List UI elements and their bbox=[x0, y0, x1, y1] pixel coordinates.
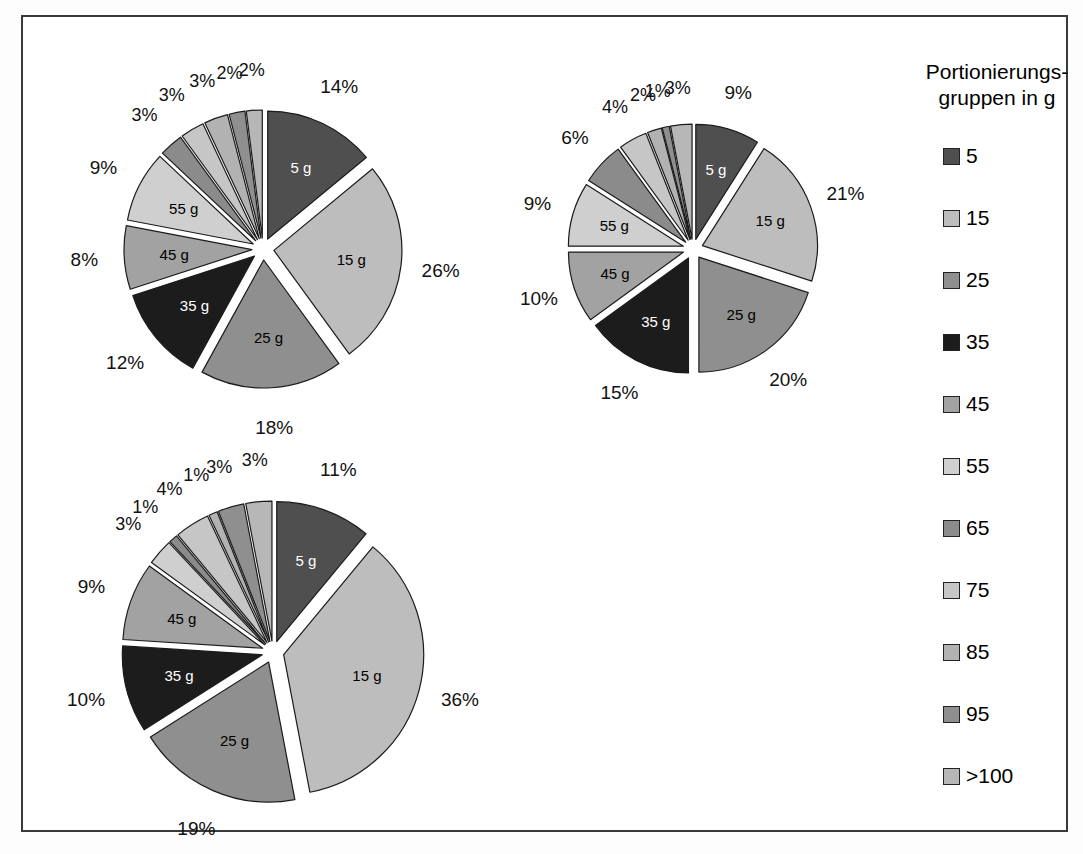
pie-bottom-left-svg: 5 g11%15 g36%25 g19%35 g10%45 g9%3%1%4%1… bbox=[23, 417, 583, 827]
legend-item-label: 75 bbox=[966, 578, 989, 602]
legend-item-label: 55 bbox=[966, 454, 989, 478]
legend-item-5[interactable]: 5 bbox=[907, 125, 1083, 187]
slice-percent-label: 21% bbox=[826, 183, 864, 204]
slice-percent-label: 3% bbox=[189, 71, 215, 91]
legend-item-85[interactable]: 85 bbox=[907, 621, 1083, 683]
legend-swatch-icon bbox=[943, 210, 960, 227]
legend-swatch-icon bbox=[943, 272, 960, 289]
slice-percent-label: 8% bbox=[71, 249, 99, 270]
slice-inner-label: 45 g bbox=[160, 246, 189, 263]
legend-item-75[interactable]: 75 bbox=[907, 559, 1083, 621]
slice-inner-label: 15 g bbox=[337, 251, 366, 268]
slice-percent-label: 2% bbox=[239, 60, 265, 80]
legend-item-label: 15 bbox=[966, 206, 989, 230]
legend-item-65[interactable]: 65 bbox=[907, 497, 1083, 559]
slice-percent-label: 10% bbox=[520, 288, 558, 309]
legend-swatch-icon bbox=[943, 768, 960, 785]
legend-item-label: 25 bbox=[966, 268, 989, 292]
slice-inner-label: 15 g bbox=[756, 212, 785, 229]
slice-percent-label: 4% bbox=[157, 479, 183, 499]
slice-inner-label: 35 g bbox=[641, 313, 670, 330]
legend-item-25[interactable]: 25 bbox=[907, 249, 1083, 311]
slice-percent-label: 6% bbox=[561, 127, 589, 148]
slice-percent-label: 36% bbox=[441, 689, 479, 710]
legend-title: Portionierungs- gruppen in g bbox=[907, 59, 1083, 111]
slice-percent-label: 3% bbox=[159, 85, 185, 105]
slice-percent-label: 4% bbox=[602, 97, 628, 117]
pie-top-right-svg: 5 g9%15 g21%25 g20%35 g15%45 g10%55 g9%6… bbox=[493, 17, 913, 447]
legend-item-label: 5 bbox=[966, 144, 978, 168]
slice-percent-label: 19% bbox=[177, 818, 215, 839]
slice-percent-label: 20% bbox=[769, 369, 807, 390]
slice-percent-label: 26% bbox=[422, 260, 460, 281]
legend-swatch-icon bbox=[943, 458, 960, 475]
slice-percent-label: 1% bbox=[132, 497, 158, 517]
slice-inner-label: 25 g bbox=[727, 306, 756, 323]
legend-item-label: 45 bbox=[966, 392, 989, 416]
slice-percent-label: 10% bbox=[67, 689, 105, 710]
slice-inner-label: 5 g bbox=[290, 159, 311, 176]
legend-item-gt100[interactable]: >100 bbox=[907, 745, 1083, 807]
slice-percent-label: 3% bbox=[115, 514, 141, 534]
slice-percent-label: 14% bbox=[320, 76, 358, 97]
slice-inner-label: 5 g bbox=[705, 161, 726, 178]
slice-inner-label: 35 g bbox=[180, 297, 209, 314]
slice-percent-label: 12% bbox=[106, 352, 144, 373]
legend-swatch-icon bbox=[943, 396, 960, 413]
slice-percent-label: 9% bbox=[90, 157, 118, 178]
slice-inner-label: 15 g bbox=[352, 667, 381, 684]
slice-percent-label: 9% bbox=[78, 576, 106, 597]
slice-percent-label: 9% bbox=[524, 193, 552, 214]
pie-chart-top-right: 5 g9%15 g21%25 g20%35 g15%45 g10%55 g9%6… bbox=[493, 17, 913, 447]
legend-rows: 5152535455565758595>100 bbox=[907, 125, 1083, 807]
chart-legend: Portionierungs- gruppen in g 51525354555… bbox=[907, 59, 1083, 807]
slice-percent-label: 3% bbox=[132, 105, 158, 125]
legend-item-label: 35 bbox=[966, 330, 989, 354]
legend-swatch-icon bbox=[943, 148, 960, 165]
legend-item-label: >100 bbox=[966, 764, 1013, 788]
slice-inner-label: 45 g bbox=[167, 610, 196, 627]
legend-item-label: 65 bbox=[966, 516, 989, 540]
slice-percent-label: 3% bbox=[665, 78, 691, 98]
legend-item-55[interactable]: 55 bbox=[907, 435, 1083, 497]
legend-item-label: 95 bbox=[966, 702, 989, 726]
slice-inner-label: 5 g bbox=[295, 552, 316, 569]
slice-inner-label: 35 g bbox=[164, 667, 193, 684]
legend-swatch-icon bbox=[943, 582, 960, 599]
slice-inner-label: 45 g bbox=[600, 265, 629, 282]
legend-swatch-icon bbox=[943, 644, 960, 661]
legend-item-15[interactable]: 15 bbox=[907, 187, 1083, 249]
slice-percent-label: 15% bbox=[600, 382, 638, 403]
slice-inner-label: 25 g bbox=[220, 732, 249, 749]
legend-swatch-icon bbox=[943, 334, 960, 351]
legend-item-35[interactable]: 35 bbox=[907, 311, 1083, 373]
slice-percent-label: 3% bbox=[242, 450, 268, 470]
legend-item-45[interactable]: 45 bbox=[907, 373, 1083, 435]
legend-item-95[interactable]: 95 bbox=[907, 683, 1083, 745]
figure-frame: 5 g14%15 g26%25 g18%35 g12%45 g8%55 g9%3… bbox=[21, 15, 1068, 832]
slice-inner-label: 55 g bbox=[600, 217, 629, 234]
pie-chart-bottom-left: 5 g11%15 g36%25 g19%35 g10%45 g9%3%1%4%1… bbox=[23, 417, 583, 827]
slice-percent-label: 3% bbox=[206, 457, 232, 477]
slice-inner-label: 55 g bbox=[169, 200, 198, 217]
legend-swatch-icon bbox=[943, 520, 960, 537]
slice-inner-label: 25 g bbox=[254, 329, 283, 346]
slice-percent-label: 9% bbox=[724, 82, 752, 103]
legend-item-label: 85 bbox=[966, 640, 989, 664]
slice-percent-label: 11% bbox=[320, 459, 357, 480]
legend-swatch-icon bbox=[943, 706, 960, 723]
